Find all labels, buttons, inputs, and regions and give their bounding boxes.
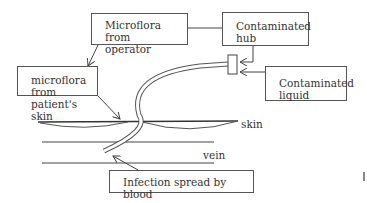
box-microflora-operator: Microflora from operator bbox=[91, 13, 188, 45]
box-skin-line3: skin bbox=[31, 110, 97, 122]
box-operator-line1: Microflora from bbox=[105, 19, 187, 43]
box-blood-line1: Infection spread by blood bbox=[123, 176, 253, 200]
box-infection-blood: Infection spread by blood bbox=[109, 170, 254, 193]
catheter bbox=[104, 64, 228, 151]
box-liquid-line2: liquid bbox=[279, 89, 346, 101]
arrow-hub-to-catheter-hub bbox=[240, 46, 253, 62]
box-liquid-line1: Contaminated bbox=[279, 77, 346, 89]
catheter-hub bbox=[228, 55, 237, 74]
box-operator-line2: operator bbox=[105, 43, 187, 55]
label-skin: skin bbox=[241, 118, 263, 130]
box-contaminated-hub: Contaminated hub bbox=[222, 12, 309, 46]
arrow-operator-to-skinflora bbox=[88, 45, 98, 66]
box-skin-line2: from patient's bbox=[31, 86, 97, 110]
box-hub-line2: hub bbox=[236, 32, 308, 44]
label-vein: vein bbox=[203, 149, 225, 161]
box-hub-line1: Contaminated bbox=[236, 20, 308, 32]
box-microflora-skin: microflora from patient's skin bbox=[17, 66, 98, 96]
box-contaminated-liquid: Contaminated liquid bbox=[265, 66, 347, 101]
arrow-skinflora-to-insertion bbox=[98, 96, 120, 119]
edge-artifact bbox=[363, 172, 365, 181]
box-skin-line1: microflora bbox=[31, 74, 97, 86]
